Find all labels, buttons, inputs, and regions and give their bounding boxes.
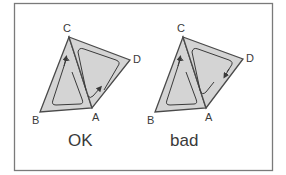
vertex-label-d: D xyxy=(133,54,141,65)
panel-bad xyxy=(155,37,243,112)
caption-ok: OK xyxy=(68,132,93,149)
vertex-label-d: D xyxy=(246,53,254,64)
vertex-label-c: C xyxy=(63,23,71,34)
panel-ok xyxy=(40,37,130,112)
diagram-canvas xyxy=(0,0,286,175)
vertex-label-a: A xyxy=(205,112,212,123)
caption-bad: bad xyxy=(170,132,198,149)
vertex-label-a: A xyxy=(92,112,99,123)
vertex-label-c: C xyxy=(177,23,185,34)
vertex-label-b: B xyxy=(32,115,39,126)
vertex-label-b: B xyxy=(147,115,154,126)
diagram-figure: C D A B OK C D A B bad xyxy=(0,0,286,175)
